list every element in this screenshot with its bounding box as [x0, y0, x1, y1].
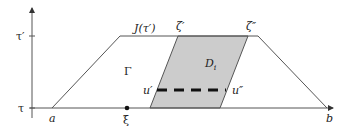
label-u-prime: u′ [143, 84, 153, 97]
label-tau-prime: τ′ [16, 30, 25, 43]
label-tau: τ [18, 102, 24, 115]
label-j-tau-prime: J(τ′) [132, 22, 156, 35]
label-zeta-prime: ζ′ [176, 20, 185, 33]
shaded-region-d [150, 36, 248, 108]
diagram-canvas: τ′ τ a b ξ J(τ′) Γ ζ′ ζ″ Di u′ u″ [0, 0, 353, 131]
label-u-double-prime: u″ [232, 84, 244, 97]
label-zeta-double-prime: ζ″ [246, 20, 257, 33]
label-gamma: Γ [124, 65, 132, 78]
label-a: a [49, 112, 56, 125]
label-b: b [326, 112, 333, 125]
label-xi: ξ [123, 114, 129, 127]
xi-point [125, 106, 130, 111]
